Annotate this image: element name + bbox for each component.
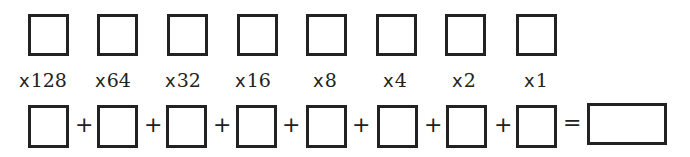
product-box-32[interactable] bbox=[166, 105, 207, 148]
times-sign: x bbox=[95, 70, 106, 91]
bit-box-16[interactable] bbox=[237, 14, 278, 56]
plus-sign: + bbox=[213, 112, 229, 138]
multiplier-label-32: x32 bbox=[165, 68, 201, 93]
bit-box-4[interactable] bbox=[376, 14, 417, 56]
multiplier-label-2: x2 bbox=[452, 68, 476, 93]
multiplier-value: 4 bbox=[395, 69, 407, 91]
multiplier-value: 16 bbox=[247, 69, 271, 91]
result-box[interactable] bbox=[587, 103, 667, 145]
product-box-128[interactable] bbox=[28, 105, 69, 148]
times-sign: x bbox=[19, 70, 30, 91]
bit-box-64[interactable] bbox=[97, 14, 138, 56]
multiplier-value: 128 bbox=[31, 69, 67, 91]
multiplier-value: 8 bbox=[325, 69, 337, 91]
multiplier-value: 64 bbox=[107, 69, 131, 91]
plus-sign: + bbox=[144, 112, 160, 138]
plus-sign: + bbox=[494, 112, 510, 138]
bit-box-2[interactable] bbox=[445, 14, 486, 56]
bit-box-128[interactable] bbox=[28, 14, 69, 56]
multiplier-label-8: x8 bbox=[313, 68, 337, 93]
product-box-4[interactable] bbox=[377, 105, 418, 148]
plus-sign: + bbox=[282, 112, 298, 138]
multiplier-label-1: x1 bbox=[524, 68, 548, 93]
product-box-1[interactable] bbox=[516, 105, 557, 148]
plus-sign: + bbox=[352, 112, 368, 138]
times-sign: x bbox=[452, 70, 463, 91]
equals-sign: = bbox=[563, 110, 579, 136]
plus-sign: + bbox=[424, 112, 440, 138]
multiplier-label-16: x16 bbox=[235, 68, 271, 93]
product-box-16[interactable] bbox=[236, 105, 277, 148]
bit-box-1[interactable] bbox=[516, 14, 557, 56]
plus-sign: + bbox=[75, 112, 91, 138]
times-sign: x bbox=[383, 70, 394, 91]
times-sign: x bbox=[524, 70, 535, 91]
multiplier-label-128: x128 bbox=[19, 68, 67, 93]
multiplier-label-4: x4 bbox=[383, 68, 407, 93]
times-sign: x bbox=[313, 70, 324, 91]
multiplier-value: 1 bbox=[536, 69, 548, 91]
times-sign: x bbox=[165, 70, 176, 91]
multiplier-value: 2 bbox=[464, 69, 476, 91]
times-sign: x bbox=[235, 70, 246, 91]
product-box-8[interactable] bbox=[306, 105, 347, 148]
multiplier-label-64: x64 bbox=[95, 68, 131, 93]
bit-box-8[interactable] bbox=[306, 14, 347, 56]
multiplier-value: 32 bbox=[177, 69, 201, 91]
product-box-2[interactable] bbox=[446, 105, 487, 148]
bit-box-32[interactable] bbox=[167, 14, 208, 56]
product-box-64[interactable] bbox=[97, 105, 138, 148]
